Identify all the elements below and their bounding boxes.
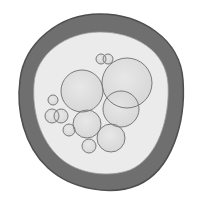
cell-diagram: [0, 0, 197, 205]
cell-figure: [0, 0, 197, 205]
